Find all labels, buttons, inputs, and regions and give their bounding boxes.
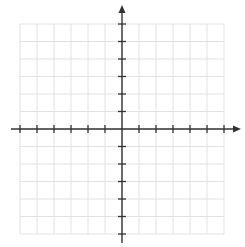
x-axis-arrow-icon — [233, 126, 241, 133]
coordinate-plane — [0, 0, 245, 247]
y-axis-arrow-icon — [119, 5, 126, 13]
